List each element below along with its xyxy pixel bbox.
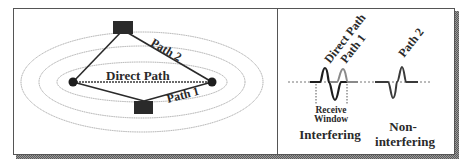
transmitter-node-icon xyxy=(69,78,78,87)
direct-path-label: Direct Path xyxy=(106,68,170,83)
receive-window-label-line2: Window xyxy=(314,114,348,124)
multipath-diagram: Direct Path Path 2 Path 1 Direct Path Pa… xyxy=(0,0,469,165)
reflector-bottom-icon xyxy=(134,101,153,114)
receiver-node-icon xyxy=(208,78,217,87)
frame-shadow-right xyxy=(455,11,459,159)
non-interfering-label-line2: interfering xyxy=(375,134,435,149)
frame-shadow-bottom xyxy=(16,155,457,159)
reflector-top-icon xyxy=(113,21,133,34)
left-panel: Direct Path Path 2 Path 1 xyxy=(14,9,278,155)
interfering-label: Interfering xyxy=(299,127,361,142)
right-panel: Direct Path Path 1 Path 2 Receive Window… xyxy=(278,9,455,155)
non-interfering-label-line1: Non- xyxy=(389,119,416,134)
